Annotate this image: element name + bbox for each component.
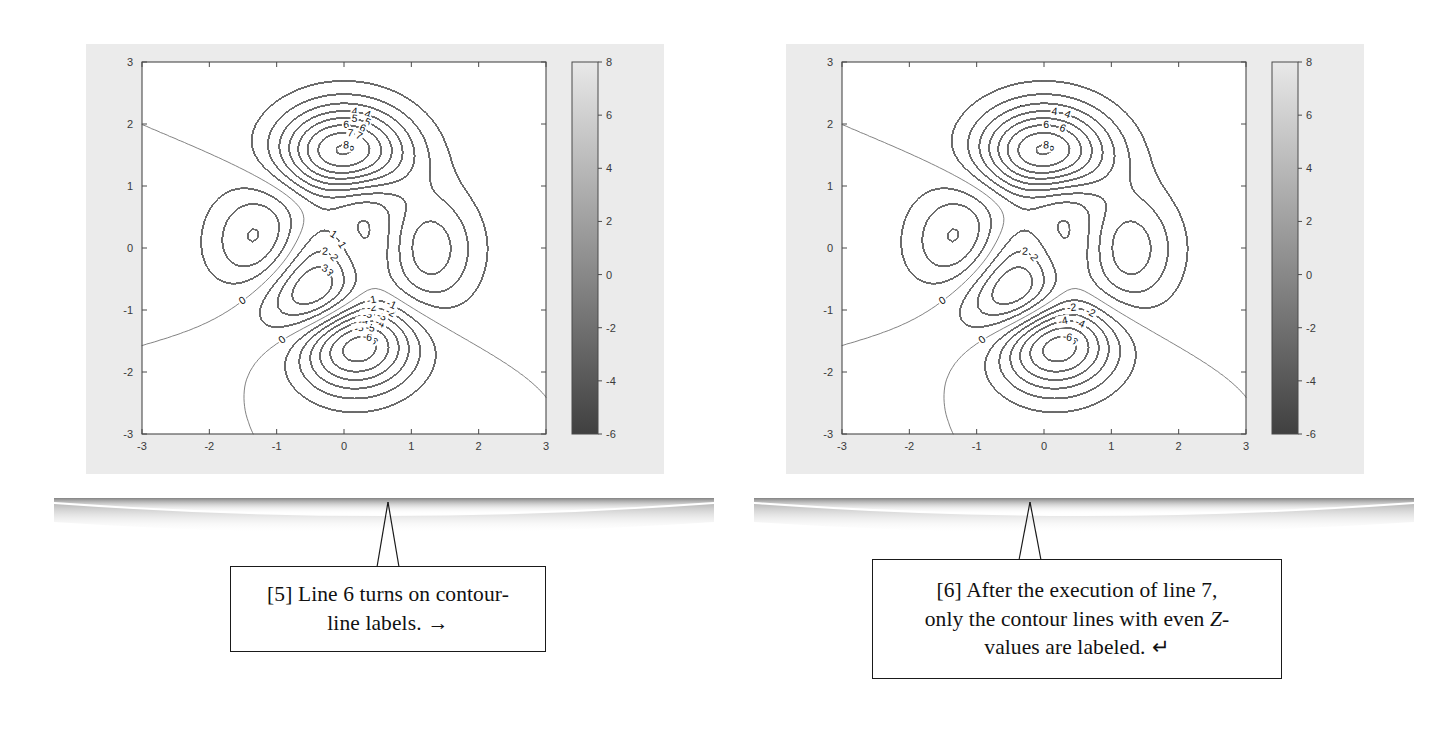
contour-plot-even-labels: -6-6-4-4-2-20022446688-3-2-10123-3-2-101…: [786, 44, 1364, 474]
x-tick-label: 2: [1176, 440, 1182, 452]
callout-line-2-label: line labels.: [327, 611, 421, 635]
colorbar-gradient: [572, 62, 598, 434]
figure-left-svg: -6-6-5-5-4-4-3-3-2-2-1-10011223344556677…: [86, 44, 664, 474]
x-tick-label: -1: [972, 440, 982, 452]
y-tick-label: -3: [123, 428, 133, 440]
y-tick-label: -3: [823, 428, 833, 440]
y-tick-label: 1: [827, 180, 833, 192]
y-tick-label: 2: [827, 118, 833, 130]
y-tick-label: 1: [127, 180, 133, 192]
x-tick-label: 0: [341, 440, 347, 452]
colorbar-tick-label: 0: [1306, 269, 1312, 281]
contour-plot-all-labels-panel: -6-6-5-5-4-4-3-3-2-2-1-10011223344556677…: [66, 22, 686, 502]
y-tick-label: 0: [127, 242, 133, 254]
contour-label: 2: [322, 244, 329, 256]
colorbar-tick-label: -4: [606, 375, 616, 387]
colorbar-tick-label: -4: [1306, 375, 1316, 387]
x-tick-label: -1: [272, 440, 282, 452]
colorbar-tick-label: 4: [1306, 162, 1312, 174]
return-arrow-icon: ↵: [1146, 635, 1170, 659]
contour-label: 6: [1043, 118, 1049, 130]
y-tick-label: 0: [827, 242, 833, 254]
callout-line6-labels-leader: [358, 502, 418, 568]
x-tick-label: 3: [543, 440, 549, 452]
y-tick-label: 3: [827, 56, 833, 68]
callout-line-3-label: values are labeled.: [984, 635, 1145, 659]
x-tick-label: -3: [837, 440, 847, 452]
contour-plot-all-labels: -6-6-5-5-4-4-3-3-2-2-1-10011223344556677…: [86, 44, 664, 474]
x-tick-label: -3: [137, 440, 147, 452]
colorbar-tick-label: -6: [1306, 428, 1316, 440]
y-tick-label: -2: [123, 366, 133, 378]
colorbar-tick-label: 8: [1306, 56, 1312, 68]
colorbar-tick-label: 2: [606, 215, 612, 227]
colorbar-tick-label: -6: [606, 428, 616, 440]
y-tick-label: -1: [123, 304, 133, 316]
figure-right-svg: -6-6-4-4-2-20022446688-3-2-10123-3-2-101…: [786, 44, 1364, 474]
x-tick-label: -2: [204, 440, 214, 452]
callout-line-2: line labels.→: [267, 609, 509, 638]
colorbar-tick-label: -2: [1306, 322, 1316, 334]
contour-label: 8: [343, 138, 350, 150]
callout-line6-labels-text: [5] Line 6 turns on contour-line labels.…: [267, 580, 509, 638]
colorbar-tick-label: 2: [1306, 215, 1312, 227]
contour-label: 2: [1022, 244, 1029, 256]
colorbar-tick-label: -2: [606, 322, 616, 334]
callout-line6-labels: [5] Line 6 turns on contour-line labels.…: [230, 566, 546, 652]
x-tick-label: 1: [408, 440, 414, 452]
figure-left-colorbar: -6-4-202468: [572, 56, 616, 440]
contour-plot-even-labels-canvas: -6-6-4-4-2-20022446688-3-2-10123-3-2-101…: [786, 44, 1364, 474]
z-variable: Z: [1210, 607, 1222, 631]
callout-line-3: values are labeled.↵: [925, 633, 1229, 662]
callout-line-2-part-b: -: [1222, 607, 1229, 631]
colorbar-tick-label: 0: [606, 269, 612, 281]
colorbar-tick-label: 8: [606, 56, 612, 68]
contour-label: -2: [1066, 301, 1077, 314]
y-tick-label: 3: [127, 56, 133, 68]
x-tick-label: 3: [1243, 440, 1249, 452]
callout-line-2: only the contour lines with even Z-: [925, 605, 1229, 634]
y-tick-label: -2: [823, 366, 833, 378]
colorbar-gradient: [1272, 62, 1298, 434]
callout-line7-even-labels-leader: [1000, 502, 1060, 561]
colorbar-tick-label: 6: [1306, 109, 1312, 121]
figure-right-colorbar: -6-4-202468: [1272, 56, 1316, 440]
contour-plot-even-labels-panel: -6-6-4-4-2-20022446688-3-2-10123-3-2-101…: [766, 22, 1386, 502]
callout-line-2-part-a: only the contour lines with even: [925, 607, 1210, 631]
callout-line-1: [5] Line 6 turns on contour-: [267, 580, 509, 609]
colorbar-tick-label: 4: [606, 162, 612, 174]
right-arrow-icon: →: [422, 611, 449, 635]
x-tick-label: 0: [1041, 440, 1047, 452]
x-tick-label: 1: [1108, 440, 1114, 452]
contour-label: 8: [1043, 138, 1050, 150]
callout-line7-even-labels-text: [6] After the execution of line 7,only t…: [925, 576, 1229, 662]
callout-line7-even-labels: [6] After the execution of line 7,only t…: [872, 559, 1282, 679]
y-tick-label: 2: [127, 118, 133, 130]
callout-line-1: [6] After the execution of line 7,: [925, 576, 1229, 605]
colorbar-tick-label: 6: [606, 109, 612, 121]
x-tick-label: 2: [476, 440, 482, 452]
x-tick-label: -2: [904, 440, 914, 452]
y-tick-label: -1: [823, 304, 833, 316]
contour-plot-even-labels-shadow: [754, 498, 1414, 538]
contour-plot-all-labels-shadow: [54, 498, 714, 538]
contour-plot-all-labels-canvas: -6-6-5-5-4-4-3-3-2-2-1-10011223344556677…: [86, 44, 664, 474]
